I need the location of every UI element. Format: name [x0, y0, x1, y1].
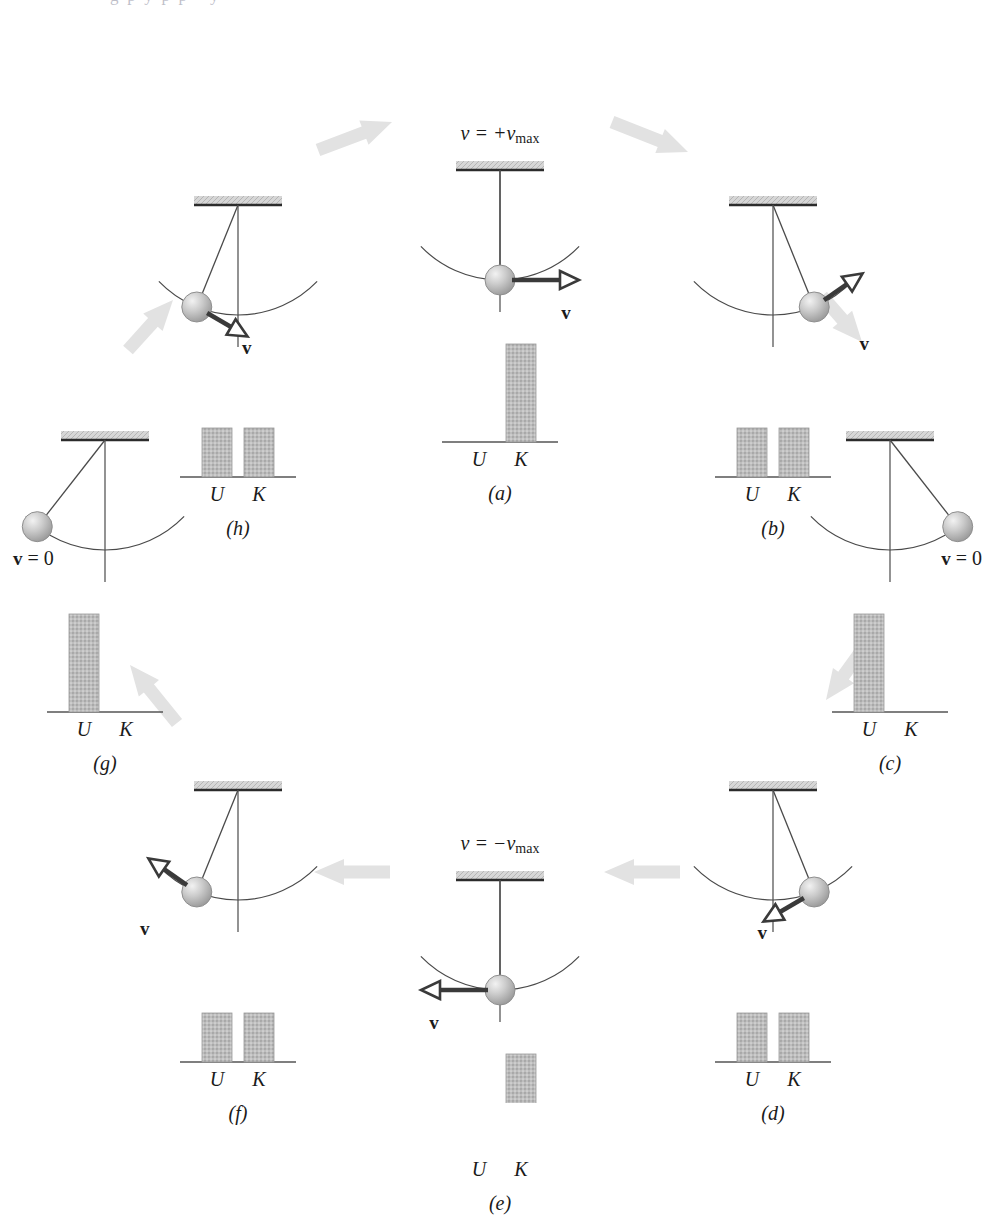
bar-axis-label-u-d: U: [745, 1068, 759, 1091]
panel-label-a: (a): [488, 482, 511, 505]
pendulum-bob-c: [943, 512, 973, 542]
ceiling-hatch-c: [846, 431, 934, 440]
pendulum-bob-b: [799, 292, 829, 322]
bar-axis-label-k-h: K: [252, 483, 265, 506]
panel-e: [421, 871, 579, 1103]
bar-u-b: [737, 428, 767, 477]
bar-axis-label-k-c: K: [904, 718, 917, 741]
panel-g: [22, 431, 184, 712]
ceiling-hatch-f: [194, 781, 282, 790]
bar-u-g: [69, 614, 99, 712]
ceiling-hatch-g: [61, 431, 149, 440]
bar-u-c: [854, 614, 884, 712]
velocity-label-g: v = 0: [13, 547, 54, 570]
pendulum-bob-g: [22, 512, 52, 542]
pendulum-string-f: [197, 790, 238, 892]
pendulum-string-g: [37, 440, 105, 527]
velocity-label-a: v: [561, 302, 571, 324]
bar-axis-label-k-d: K: [787, 1068, 800, 1091]
panel-label-d: (d): [761, 1102, 784, 1125]
bar-axis-label-u-f: U: [210, 1068, 224, 1091]
pendulum-string-b: [773, 205, 814, 307]
flow-arrow-h-to-a: [313, 110, 396, 162]
bar-axis-label-u-b: U: [745, 483, 759, 506]
velocity-label-b: v: [859, 333, 869, 355]
panel-label-f: (f): [229, 1102, 248, 1125]
bar-k-b: [779, 428, 809, 477]
ceiling-hatch-a: [456, 161, 544, 170]
pendulum-string-h: [197, 205, 238, 307]
flow-arrow-a-to-b: [607, 110, 693, 164]
velocity-arrow-e: [421, 981, 488, 999]
pendulum-bob-e: [485, 975, 515, 1005]
ceiling-hatch-d: [729, 781, 817, 790]
top-velocity-label-e: v = −vmax: [461, 832, 540, 857]
flow-arrow-d-to-e: [604, 859, 680, 885]
pendulum-bob-a: [485, 265, 515, 295]
bar-u-h: [202, 428, 232, 477]
velocity-label-f: v: [140, 918, 150, 940]
panel-label-e: (e): [489, 1192, 511, 1215]
bar-axis-label-k-a: K: [514, 448, 527, 471]
top-velocity-label-a: v = +vmax: [461, 122, 540, 147]
velocity-label-h: v: [242, 337, 252, 359]
pendulum-bob-h: [182, 292, 212, 322]
panel-label-g: (g): [93, 752, 116, 775]
bar-axis-label-u-c: U: [862, 718, 876, 741]
bar-k-d: [779, 1013, 809, 1062]
ceiling-hatch-b: [729, 196, 817, 205]
bar-axis-label-u-e: U: [472, 1158, 486, 1181]
bar-k-f: [244, 1013, 274, 1062]
bar-axis-label-k-e: K: [514, 1158, 527, 1181]
flow-arrow-e-to-f: [314, 859, 390, 885]
panel-b: [694, 196, 868, 477]
velocity-label-c: v = 0: [941, 547, 982, 570]
velocity-label-d: v: [757, 922, 767, 944]
velocity-arrow-b: [819, 266, 868, 308]
bar-k-a: [506, 344, 536, 442]
bar-axis-label-k-f: K: [252, 1068, 265, 1091]
pendulum-bob-d: [799, 877, 829, 907]
velocity-arrow-f: [143, 851, 192, 893]
bar-axis-label-u-a: U: [472, 448, 486, 471]
pendulum-bob-f: [182, 877, 212, 907]
bar-axis-label-u-g: U: [77, 718, 91, 741]
panel-d: [694, 781, 852, 1062]
bar-k-h: [244, 428, 274, 477]
pendulum-string-c: [890, 440, 958, 527]
ceiling-hatch-e: [456, 871, 544, 880]
panel-f: [143, 781, 317, 1062]
pendulum-string-d: [773, 790, 814, 892]
bar-axis-label-k-g: K: [119, 718, 132, 741]
panel-label-h: (h): [226, 517, 249, 540]
bar-axis-label-u-h: U: [210, 483, 224, 506]
bar-k-e: [506, 1054, 536, 1103]
panel-a: [421, 161, 579, 442]
bar-u-d: [737, 1013, 767, 1062]
panel-label-c: (c): [879, 752, 901, 775]
panel-label-b: (b): [761, 517, 784, 540]
ceiling-hatch-h: [194, 196, 282, 205]
bar-u-f: [202, 1013, 232, 1062]
velocity-label-e: v: [429, 1012, 439, 1034]
flow-arrow-g-to-h: [118, 291, 182, 358]
velocity-arrow-a: [512, 271, 579, 289]
bar-axis-label-k-b: K: [787, 483, 800, 506]
panel-h: [159, 196, 317, 477]
